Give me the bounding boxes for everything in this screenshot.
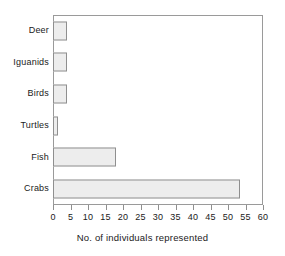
x-axis-tick-mark	[263, 205, 264, 210]
x-axis-tick-mark	[228, 205, 229, 210]
x-axis-tick-mark	[176, 205, 177, 210]
bar-row	[53, 78, 263, 110]
y-axis-tick-label: Turtles	[0, 110, 49, 142]
x-axis-tick-mark	[211, 205, 212, 210]
bar	[53, 116, 58, 135]
x-axis-tick-label: 20	[118, 212, 128, 222]
x-axis-tick-mark	[158, 205, 159, 210]
x-axis-tick-mark	[53, 205, 54, 210]
x-axis-tick-mark	[88, 205, 89, 210]
bar	[53, 21, 67, 40]
x-axis-tick-mark	[123, 205, 124, 210]
x-axis-tick-label: 55	[240, 212, 250, 222]
x-axis-tick-label: 45	[205, 212, 215, 222]
x-axis-tick-mark	[193, 205, 194, 210]
bar-row	[53, 110, 263, 142]
y-axis-tick-label: Deer	[0, 15, 49, 47]
x-axis-tick-label: 30	[153, 212, 163, 222]
y-axis-tick-label: Iguanids	[0, 47, 49, 79]
x-axis-tick-label: 35	[170, 212, 180, 222]
bar-chart-figure: DeerIguanidsBirdsTurtlesFishCrabs 051015…	[0, 0, 285, 256]
x-axis-tick-label: 5	[68, 212, 73, 222]
bar-row	[53, 142, 263, 174]
x-axis-tick-mark	[141, 205, 142, 210]
x-axis-title: No. of individuals represented	[0, 232, 285, 243]
y-axis-tick-label: Fish	[0, 142, 49, 174]
x-axis-ticks: 051015202530354045505560	[53, 205, 263, 231]
x-axis-tick-mark	[71, 205, 72, 210]
bars-container	[53, 15, 263, 205]
y-axis-tick-label: Crabs	[0, 173, 49, 205]
bar	[53, 85, 67, 104]
bar	[53, 180, 240, 199]
x-axis-tick-label: 10	[83, 212, 93, 222]
x-axis-tick-label: 25	[135, 212, 145, 222]
bar-row	[53, 15, 263, 47]
bar	[53, 53, 67, 72]
y-axis-tick-label: Birds	[0, 78, 49, 110]
bar-row	[53, 173, 263, 205]
x-axis-tick-mark	[246, 205, 247, 210]
x-axis-tick-label: 50	[223, 212, 233, 222]
bar	[53, 148, 116, 167]
x-axis-tick-label: 15	[100, 212, 110, 222]
bar-row	[53, 47, 263, 79]
y-axis-category-labels: DeerIguanidsBirdsTurtlesFishCrabs	[0, 15, 49, 205]
x-axis-tick-label: 0	[50, 212, 55, 222]
x-axis-tick-mark	[106, 205, 107, 210]
x-axis-tick-label: 60	[258, 212, 268, 222]
x-axis-tick-label: 40	[188, 212, 198, 222]
